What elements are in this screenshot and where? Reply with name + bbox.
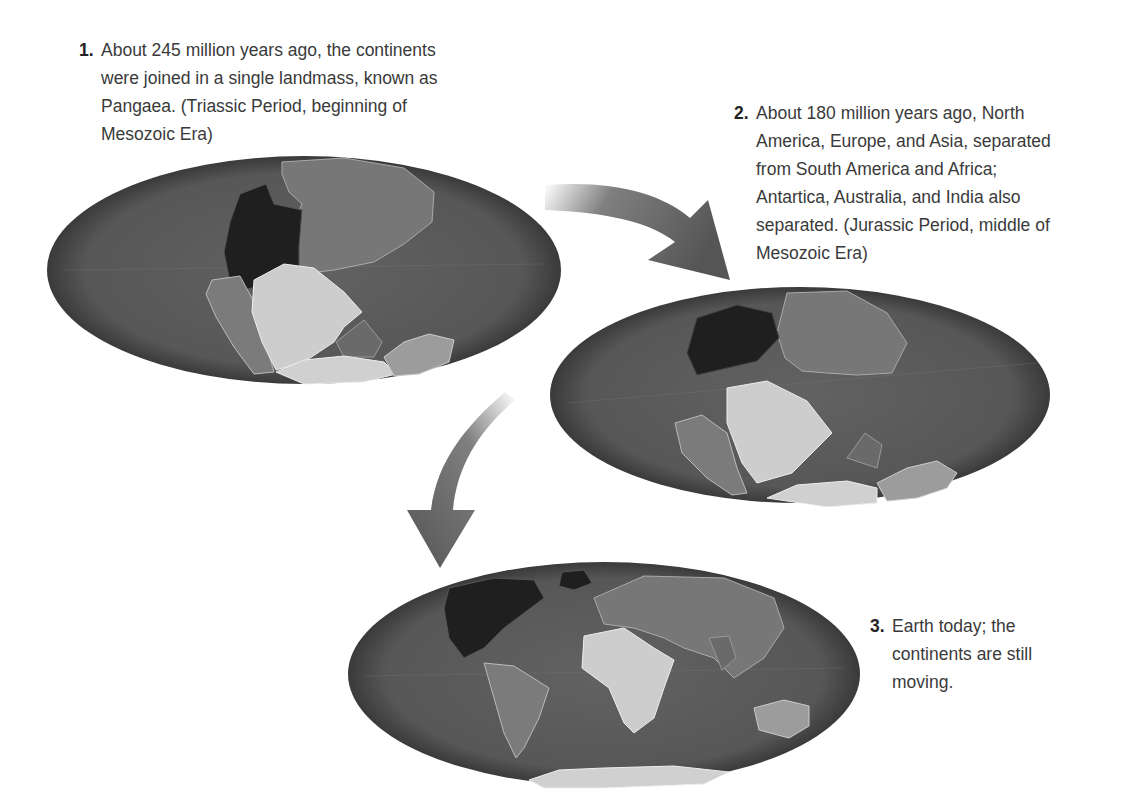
caption-line: Earth today; the <box>892 612 1032 640</box>
caption-line: separated. (Jurassic Period, middle of <box>756 211 1051 239</box>
caption-line: moving. <box>892 668 1032 696</box>
arrow-down-left-icon <box>407 392 515 568</box>
caption-line: from South America and Africa; <box>756 155 1051 183</box>
stage-3-caption: 3. Earth today; the continents are still… <box>892 612 1032 696</box>
caption-line: Pangaea. (Triassic Period, beginning of <box>101 92 438 120</box>
caption-line: About 180 million years ago, North <box>756 99 1051 127</box>
jurassic-globe <box>547 283 1053 507</box>
caption-line: About 245 million years ago, the contine… <box>101 36 438 64</box>
stage-3-number: 3. <box>870 612 885 640</box>
stage-2-caption: 2. About 180 million years ago, North Am… <box>756 99 1051 267</box>
caption-line: Mesozoic Era) <box>756 239 1051 267</box>
caption-line: were joined in a single landmass, known … <box>101 64 438 92</box>
stage-1-caption: 1. About 245 million years ago, the cont… <box>101 36 438 148</box>
caption-line: Mesozoic Era) <box>101 120 438 148</box>
arrow-right-down-icon <box>545 184 730 280</box>
arrow-2 <box>395 390 535 570</box>
stage-1-number: 1. <box>79 36 94 64</box>
caption-line: America, Europe, and Asia, separated <box>756 127 1051 155</box>
caption-line: continents are still <box>892 640 1032 668</box>
stage-2-number: 2. <box>734 99 749 127</box>
present-day-globe <box>344 558 864 790</box>
pangaea-globe <box>44 152 564 388</box>
arrow-1 <box>540 170 750 285</box>
caption-line: Antartica, Australia, and India also <box>756 183 1051 211</box>
